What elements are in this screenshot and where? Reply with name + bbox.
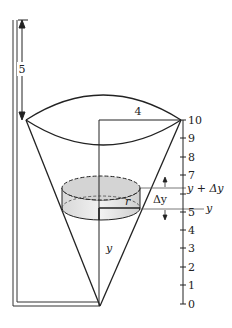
axis-tick-labels: 10 9 8 7 5 4 3 2 1 0 xyxy=(188,114,202,311)
cone-tank-diagram: 5 4 r y Δy xyxy=(0,0,232,328)
svg-text:5: 5 xyxy=(188,206,195,219)
svg-text:4: 4 xyxy=(188,224,195,237)
svg-text:2: 2 xyxy=(188,261,195,274)
svg-text:0: 0 xyxy=(188,298,195,311)
svg-text:3: 3 xyxy=(188,242,195,255)
axis-lower-level-label: y xyxy=(205,202,213,215)
radius-label: 4 xyxy=(135,105,142,118)
slice-radius-label: r xyxy=(125,195,131,208)
pipe-height-label: 5 xyxy=(19,63,26,76)
svg-text:1: 1 xyxy=(188,279,195,292)
svg-text:7: 7 xyxy=(188,169,195,182)
svg-text:9: 9 xyxy=(188,132,195,145)
height-variable-label: y xyxy=(105,242,113,255)
axis-upper-level-label: y + Δy xyxy=(186,182,224,195)
height-axis xyxy=(180,120,186,304)
svg-text:10: 10 xyxy=(188,114,202,127)
svg-text:8: 8 xyxy=(188,151,195,164)
delta-y-label: Δy xyxy=(153,193,168,206)
